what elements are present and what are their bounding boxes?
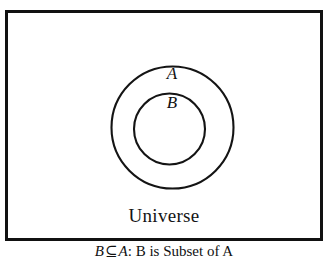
- caption-separator: :: [128, 243, 132, 259]
- caption-description: B is Subset of A: [136, 243, 234, 259]
- set-a-label: A: [152, 65, 192, 82]
- caption-lhs: B: [95, 243, 104, 259]
- caption-rhs: A: [119, 243, 128, 259]
- universe-label: Universe: [0, 206, 328, 225]
- subset-of-icon: ⊆: [104, 243, 119, 259]
- set-b-label: B: [152, 94, 192, 111]
- figure-caption: B⊆A: B is Subset of A: [0, 244, 328, 259]
